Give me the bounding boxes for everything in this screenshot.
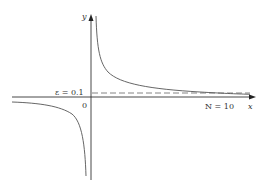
curve-negative-branch [12,102,86,176]
origin-label: 0 [82,101,87,110]
y-axis-arrow-icon [89,14,94,21]
curve-positive-branch [96,16,250,94]
plot-canvas: y x 0 ε = 0.1 N = 10 [0,0,263,187]
epsilon-label: ε = 0.1 [55,88,84,97]
n-value-label: N = 10 [205,102,234,111]
x-axis-label: x [248,102,253,111]
y-axis-label: y [81,12,87,21]
x-axis-arrow-icon [249,95,256,100]
